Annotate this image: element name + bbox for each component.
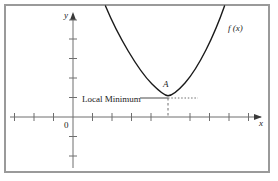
function-label-fx: f (x) — [228, 24, 243, 33]
point-label-a: A — [163, 80, 169, 89]
figure-root: y x 0 f (x) A Local Minimum — [0, 0, 278, 181]
origin-label: 0 — [64, 121, 69, 130]
local-minimum-annotation: Local Minimum — [82, 95, 141, 104]
y-axis-arrow-icon — [70, 12, 76, 20]
x-axis-label: x — [259, 119, 263, 128]
y-axis-label: y — [64, 11, 68, 20]
